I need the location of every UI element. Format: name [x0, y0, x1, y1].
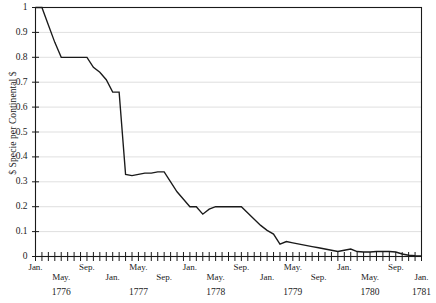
y-tick-label: 0.6 [6, 102, 28, 112]
x-tick-label: May. [203, 272, 229, 282]
x-year-label: 1778 [201, 287, 231, 297]
grid-lines [36, 8, 422, 257]
x-tick-label: Jan. [177, 262, 203, 272]
y-tick-label: 0.1 [6, 226, 28, 236]
x-tick-label: Jan. [409, 272, 435, 282]
x-tick-label: Sep. [383, 262, 409, 272]
x-tick-label: May. [357, 272, 383, 282]
x-tick-label: Sep. [74, 262, 100, 272]
x-axis-ticks [36, 252, 422, 261]
x-tick-label: Sep. [228, 262, 254, 272]
x-tick-label: Jan. [23, 262, 49, 272]
x-year-label: 1780 [355, 287, 385, 297]
y-tick-label: 0.8 [6, 52, 28, 62]
x-year-label: 1777 [123, 287, 153, 297]
x-tick-label: Jan. [331, 262, 357, 272]
x-year-label: 1781 [407, 287, 436, 297]
x-tick-label: Sep. [306, 272, 332, 282]
y-tick-label: 0.2 [6, 201, 28, 211]
y-tick-label: 0.7 [6, 77, 28, 87]
x-year-label: 1779 [278, 287, 308, 297]
x-year-label: 1776 [46, 287, 76, 297]
x-tick-label: May. [125, 262, 151, 272]
x-tick-label: May. [48, 272, 74, 282]
x-tick-label: Jan. [100, 272, 126, 282]
y-tick-label: 0.9 [6, 27, 28, 37]
x-tick-label: May. [280, 262, 306, 272]
y-tick-label: 0.4 [6, 151, 28, 161]
y-tick-label: 1 [6, 2, 28, 12]
chart-container: $ Specie per Continental $ 00.10.20.30.4… [0, 0, 436, 303]
x-tick-label: Jan. [254, 272, 280, 282]
y-tick-label: 0.3 [6, 176, 28, 186]
y-tick-label: 0.5 [6, 127, 28, 137]
y-tick-label: 0 [6, 251, 28, 261]
chart-plot-area [0, 0, 436, 303]
x-tick-label: Sep. [151, 272, 177, 282]
